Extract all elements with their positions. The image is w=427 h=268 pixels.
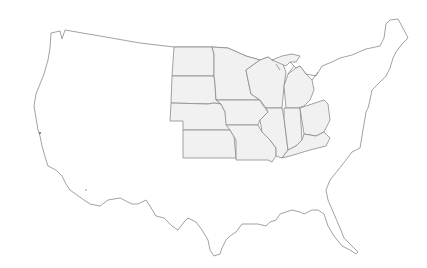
coastal-marker-sf [39, 132, 41, 134]
us-outline-map [0, 0, 427, 268]
state-south-dakota [171, 76, 221, 104]
state-kansas [183, 130, 236, 158]
midwest-region [170, 47, 330, 162]
state-north-dakota [172, 47, 214, 76]
coastal-marker-la [85, 189, 86, 190]
